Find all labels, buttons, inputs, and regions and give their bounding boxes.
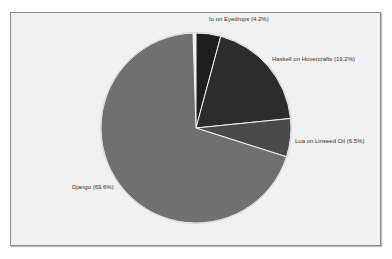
label-lua-on-linseed-oil: Lua on Linseed Oil (6.5%)	[295, 138, 364, 145]
pie-slices	[101, 33, 292, 224]
pie-chart	[0, 0, 392, 259]
label-io-on-eyedrops: Io on Eyedrops (4.2%)	[209, 16, 269, 23]
label-haskell-on-hovercrafts: Haskell on Hovercrafts (19.2%)	[272, 56, 355, 63]
label-django: Django (69.6%)	[72, 184, 114, 191]
